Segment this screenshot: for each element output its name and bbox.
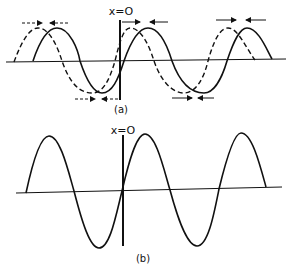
panel-a-axis [6, 59, 286, 62]
panel-a-origin-label: x=O [109, 5, 133, 18]
panel-b [16, 133, 282, 248]
panel-b-origin-label: x=O [111, 124, 135, 137]
diagram-canvas [0, 0, 288, 270]
panel-a-caption: (a) [114, 104, 128, 115]
panel-b-caption: (b) [136, 253, 150, 264]
panel-b-axis [16, 187, 282, 193]
panel-a [6, 20, 286, 100]
